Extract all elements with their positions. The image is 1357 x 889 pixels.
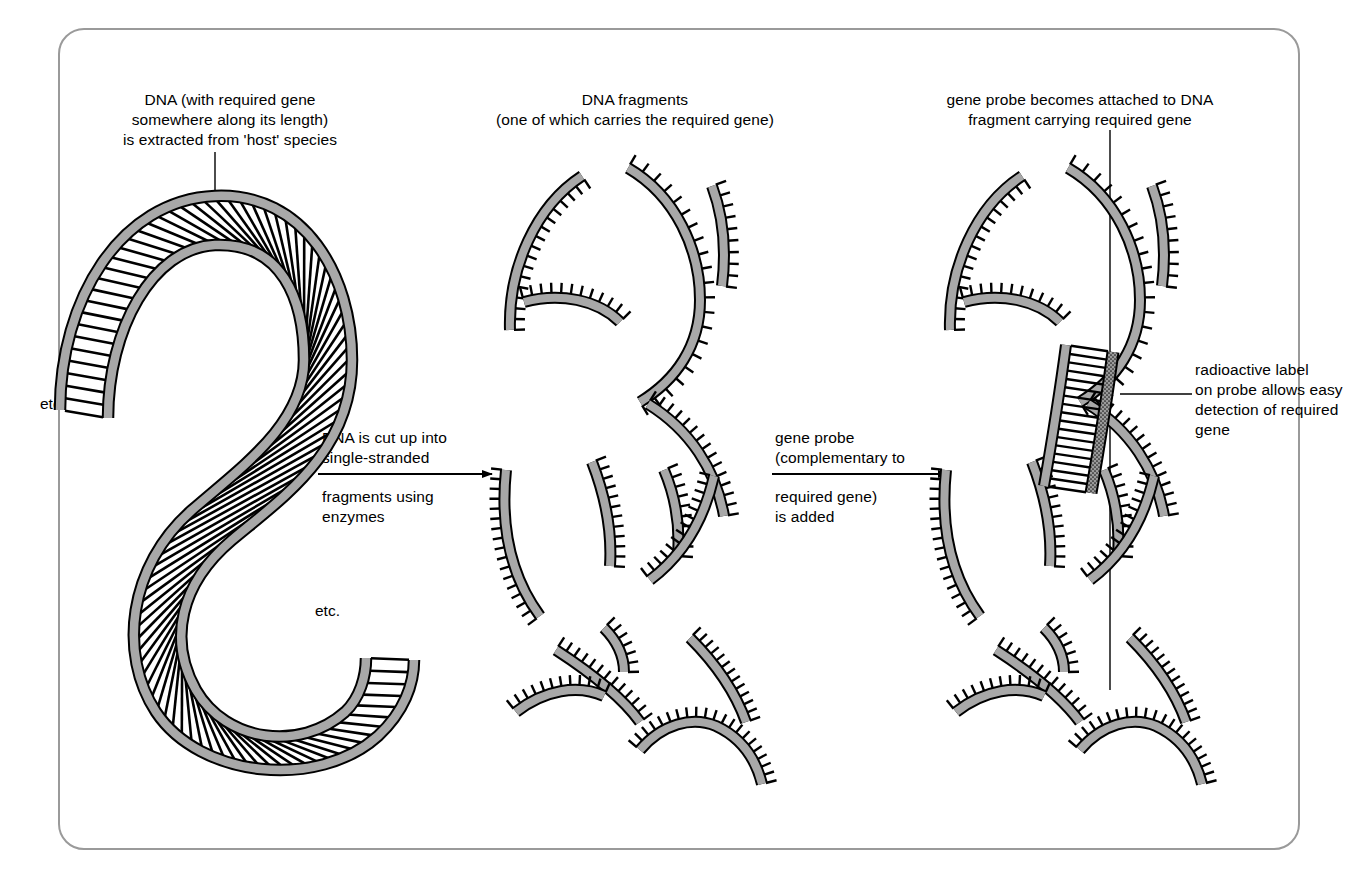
dna-fragment (510, 176, 590, 330)
dna-fragment (520, 283, 630, 322)
leader-lines (215, 130, 1192, 690)
panel-dna-artwork (60, 196, 414, 770)
diagram-artwork (0, 0, 1357, 889)
dna-fragment (929, 468, 980, 624)
dna-fragment (690, 627, 760, 722)
dna-fragment (648, 391, 739, 516)
dna-fragment (950, 176, 1030, 330)
dna-fragment (1130, 627, 1200, 722)
dna-fragment (592, 457, 625, 567)
dna-fragment (712, 181, 739, 288)
dna-fragment (960, 283, 1070, 322)
panel-fragments-artwork (489, 155, 776, 784)
panel-probe-artwork (929, 155, 1216, 784)
dna-fragment (1152, 181, 1179, 288)
dna-fragment (628, 155, 715, 415)
dna-fragment (489, 468, 540, 624)
dna-fragment (604, 617, 639, 672)
dna-fragment (1044, 617, 1079, 672)
